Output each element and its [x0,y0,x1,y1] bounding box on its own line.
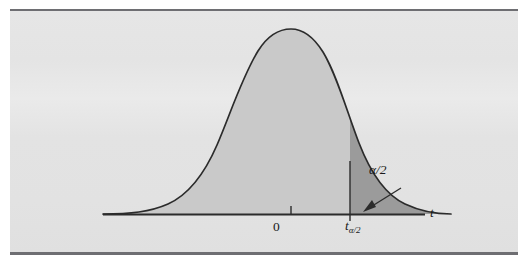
curve-body-fill [103,29,451,214]
running-head-text [186,0,516,4]
distribution-svg [10,11,518,254]
tail-area-label: α/2 [369,162,387,178]
critical-value-subscript: α/2 [349,225,361,235]
center-tick-label: 0 [273,219,280,235]
distribution-plot [10,11,518,254]
figure-page: α/2 0 tα/2 t [0,0,532,270]
critical-value-label: tα/2 [345,218,361,235]
x-axis-label: t [430,205,434,221]
